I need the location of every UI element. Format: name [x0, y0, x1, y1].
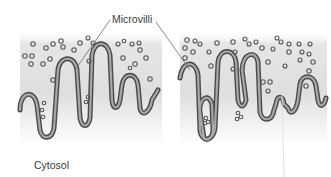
right-panel — [180, 30, 327, 177]
cytosol-label: Cytosol — [34, 159, 69, 171]
microvilli-diagram — [0, 0, 331, 177]
microvilli-label: Microvilli — [112, 13, 152, 25]
